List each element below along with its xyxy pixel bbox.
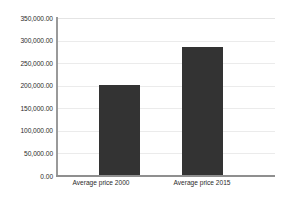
- y-axis-tick-label: 350,000.00: [0, 15, 53, 22]
- plot-area: [58, 18, 276, 176]
- bar: [182, 47, 223, 176]
- gridline: [58, 86, 276, 87]
- gridline: [58, 131, 276, 132]
- y-axis-tick-label: 200,000.00: [0, 82, 53, 89]
- bar-chart: 350,000.00 300,000.00 250,000.00 200,000…: [0, 0, 284, 199]
- gridline: [58, 18, 276, 19]
- gridline: [58, 63, 276, 64]
- x-axis-line: [56, 175, 275, 177]
- y-axis-tick-label: 150,000.00: [0, 105, 53, 112]
- x-axis-category-label: Average price 2015: [163, 179, 241, 187]
- gridline: [58, 153, 276, 154]
- x-axis-category-label: Average price 2000: [62, 179, 140, 187]
- y-axis-line: [56, 17, 58, 177]
- gridline: [58, 41, 276, 42]
- gridline: [58, 108, 276, 109]
- y-axis-tick-label: 100,000.00: [0, 127, 53, 134]
- bar: [99, 85, 140, 176]
- y-axis-tick-label: 250,000.00: [0, 60, 53, 67]
- y-axis-labels: 350,000.00 300,000.00 250,000.00 200,000…: [0, 0, 53, 199]
- y-axis-tick-label: 0.00: [0, 173, 53, 180]
- y-axis-tick-label: 300,000.00: [0, 37, 53, 44]
- y-axis-tick-label: 50,000.00: [0, 150, 53, 157]
